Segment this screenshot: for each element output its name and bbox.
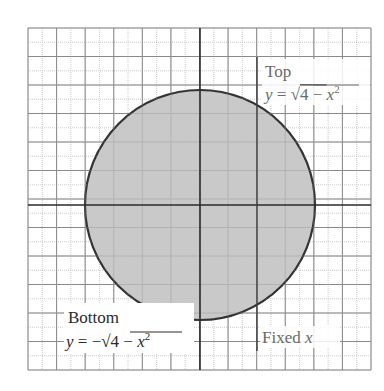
- diagram-canvas: Top y = √4 − x2 Bottom y = −√4 − x2 Fixe…: [0, 0, 384, 391]
- top-label-title: Top: [265, 62, 291, 81]
- top-label-equation: y = √4 − x2: [263, 83, 340, 104]
- bottom-label-equation: y = −√4 − x2: [64, 330, 150, 351]
- fixed-x-label: Fixed x: [262, 328, 313, 347]
- bottom-label-title: Bottom: [68, 308, 119, 327]
